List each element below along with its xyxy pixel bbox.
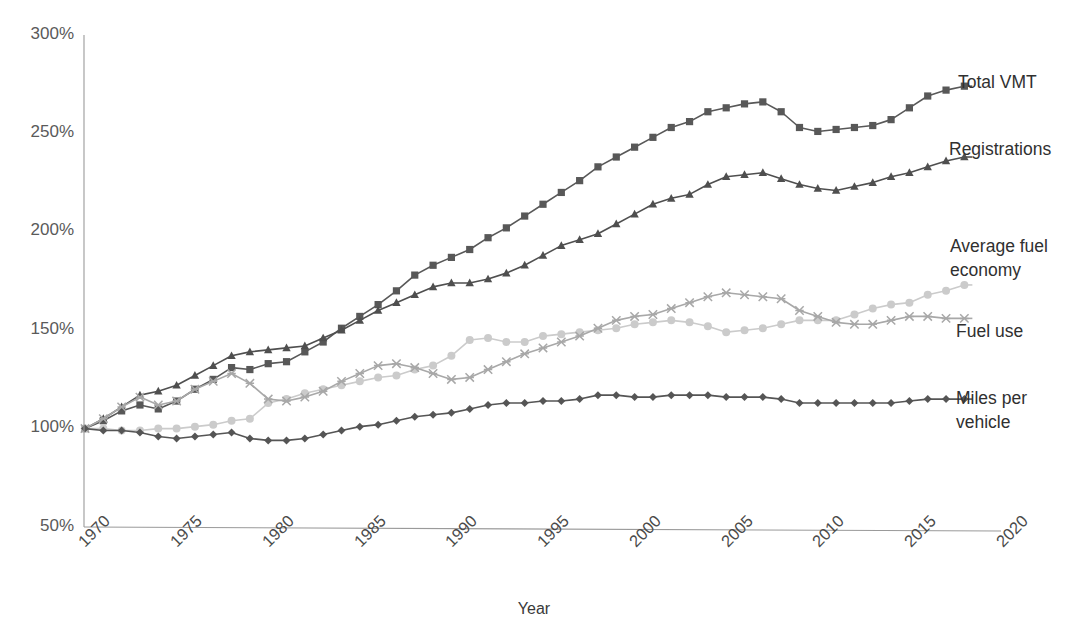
series-marker xyxy=(392,359,400,367)
series-marker xyxy=(191,371,199,379)
series-marker xyxy=(905,397,913,405)
series-marker xyxy=(630,210,638,218)
series-marker xyxy=(723,104,730,111)
series-label-miles-per-vehicle-line2: vehicle xyxy=(956,412,1010,432)
series-marker xyxy=(851,124,858,131)
x-tick-1980: 1980 xyxy=(258,511,297,550)
series-marker xyxy=(832,399,840,407)
series-marker xyxy=(741,100,748,107)
series-marker xyxy=(539,397,547,405)
series-marker xyxy=(392,371,400,379)
y-tick-150: 150% xyxy=(31,319,74,338)
series-marker xyxy=(191,423,199,431)
series-marker xyxy=(283,436,291,444)
series-marker xyxy=(356,377,364,385)
series-marker xyxy=(649,134,656,141)
series-marker xyxy=(448,254,455,261)
series-marker xyxy=(466,336,474,344)
series-marker xyxy=(850,310,858,318)
series-marker xyxy=(668,124,675,131)
x-tick-2020: 2020 xyxy=(992,511,1031,550)
series-marker xyxy=(558,189,565,196)
series-marker xyxy=(539,201,546,208)
series-marker xyxy=(228,429,236,437)
chart-container: 300% 250% 200% 150% 100% 50% 1970 1975 1… xyxy=(0,0,1068,644)
series-marker xyxy=(466,405,474,413)
series-marker xyxy=(905,312,913,320)
series-marker xyxy=(264,436,272,444)
series-marker xyxy=(631,144,638,151)
series-marker xyxy=(356,423,364,431)
y-tick-250: 250% xyxy=(31,122,74,141)
series-marker xyxy=(393,287,400,294)
x-tick-1985: 1985 xyxy=(350,511,389,550)
series-marker xyxy=(136,401,143,408)
series-marker xyxy=(686,391,694,399)
x-tick-1975: 1975 xyxy=(166,511,205,550)
series-marker xyxy=(777,295,785,303)
series-marker xyxy=(630,312,638,320)
series-marker xyxy=(850,399,858,407)
series-label-total-vmt: Total VMT xyxy=(958,72,1037,92)
series-marker xyxy=(850,320,858,328)
series-marker xyxy=(484,365,492,373)
series-marker xyxy=(539,251,547,259)
series-marker xyxy=(429,362,437,370)
series-marker xyxy=(942,287,950,295)
series-marker xyxy=(759,293,767,301)
series-marker xyxy=(447,352,455,360)
series-line xyxy=(85,285,964,431)
series-marker xyxy=(667,304,675,312)
series-marker xyxy=(283,358,290,365)
series-marker xyxy=(411,413,419,421)
series-marker xyxy=(246,434,254,442)
series-marker xyxy=(649,318,657,326)
series-marker xyxy=(887,399,895,407)
x-tick-2000: 2000 xyxy=(625,511,664,550)
series-marker xyxy=(466,373,474,381)
y-tick-300: 300% xyxy=(31,24,74,43)
series-marker xyxy=(209,361,217,369)
series-marker xyxy=(887,116,894,123)
series-marker xyxy=(704,322,712,330)
x-tick-1970: 1970 xyxy=(74,511,113,550)
series-marker xyxy=(246,366,253,373)
series-marker xyxy=(869,399,877,407)
series-marker xyxy=(502,399,510,407)
series-marker xyxy=(795,399,803,407)
series-marker xyxy=(557,330,565,338)
series-marker xyxy=(814,128,821,135)
series-label-average-fuel-economy-line2: economy xyxy=(950,260,1021,280)
series-marker xyxy=(814,399,822,407)
plot-series-group xyxy=(81,83,973,445)
series-marker xyxy=(631,320,639,328)
series-marker xyxy=(924,291,932,299)
axes-group xyxy=(84,35,1001,531)
series-marker xyxy=(795,316,803,324)
series-marker xyxy=(741,393,749,401)
series-marker xyxy=(667,391,675,399)
series-marker xyxy=(612,324,620,332)
series-marker xyxy=(778,108,785,115)
series-marker xyxy=(209,431,217,439)
series-marker xyxy=(173,434,181,442)
series-marker xyxy=(502,357,510,365)
series-marker xyxy=(521,212,528,219)
series-registrations xyxy=(81,153,973,432)
series-marker xyxy=(301,348,308,355)
series-marker xyxy=(722,328,730,336)
line-chart: 300% 250% 200% 150% 100% 50% 1970 1975 1… xyxy=(0,0,1068,644)
series-marker xyxy=(374,421,382,429)
series-marker xyxy=(759,98,766,105)
series-marker xyxy=(484,334,492,342)
series-marker xyxy=(686,118,693,125)
series-marker xyxy=(906,104,913,111)
series-marker xyxy=(429,369,437,377)
series-marker xyxy=(374,373,382,381)
series-marker xyxy=(869,305,877,313)
series-marker xyxy=(869,320,877,328)
series-marker xyxy=(924,312,932,320)
series-marker xyxy=(392,417,400,425)
series-marker xyxy=(612,316,620,324)
series-marker xyxy=(484,234,491,241)
